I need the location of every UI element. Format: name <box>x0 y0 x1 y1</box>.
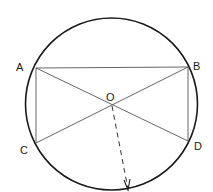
circle-rectangle-diagram: A B C D O <box>0 0 213 192</box>
label-B: B <box>193 60 200 72</box>
label-O: O <box>106 91 115 103</box>
label-C: C <box>20 144 28 156</box>
label-A: A <box>16 61 24 73</box>
radius-arrow <box>112 106 128 189</box>
segment-AB <box>36 67 188 68</box>
diagonal-BC <box>36 67 188 143</box>
label-D: D <box>194 140 202 152</box>
